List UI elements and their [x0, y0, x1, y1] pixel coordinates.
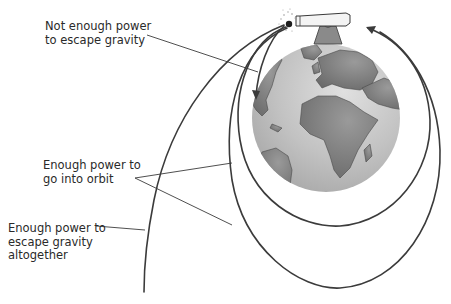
- label-line: go into orbit: [43, 173, 141, 187]
- leader-not-enough: [147, 35, 258, 72]
- label-line: to escape gravity: [45, 34, 151, 48]
- cannon: [296, 13, 350, 44]
- label-line: altogether: [8, 249, 106, 263]
- cannon-barrel: [296, 13, 350, 26]
- label-line: Enough power to: [43, 159, 141, 173]
- leader-orbit-2: [135, 178, 232, 225]
- label-not-enough-power: Not enough power to escape gravity: [45, 20, 151, 47]
- trajectory-escape: [144, 25, 284, 292]
- label-escape-gravity: Enough power to escape gravity altogethe…: [8, 222, 106, 263]
- label-line: escape gravity: [8, 236, 106, 250]
- cannon-base: [314, 26, 342, 44]
- label-line: Enough power to: [8, 222, 106, 236]
- label-enough-for-orbit: Enough power to go into orbit: [43, 159, 141, 186]
- cannonball: [286, 21, 292, 27]
- leader-orbit-1: [135, 163, 232, 178]
- label-line: Not enough power: [45, 20, 151, 34]
- earth-globe: [250, 44, 404, 196]
